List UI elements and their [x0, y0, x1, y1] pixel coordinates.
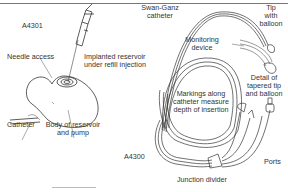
diagram-frame: A4301 Needle access Implanted reservoir … — [0, 0, 288, 192]
figure-code-right: A4300 — [124, 153, 145, 161]
label-ports: Ports — [264, 158, 281, 166]
label-junction-divider: Junction divider — [170, 176, 234, 184]
label-swan-ganz-2: catheter — [140, 12, 180, 20]
label-monitoring-2: device — [178, 44, 226, 52]
needle-illustration — [68, 4, 94, 82]
label-detail-3: and balloon — [244, 90, 284, 98]
figure-code-left: A4301 — [22, 22, 43, 30]
label-tip-3: balloon — [256, 20, 286, 28]
bottom-rule — [52, 187, 96, 188]
label-needle-access: Needle access — [7, 53, 54, 61]
label-body-2: and pump — [43, 129, 103, 137]
label-markings-3: depth of insertion — [170, 106, 232, 114]
label-catheter: Catheter — [7, 121, 35, 129]
label-implanted-reservoir-2: under refill injection — [84, 61, 146, 69]
